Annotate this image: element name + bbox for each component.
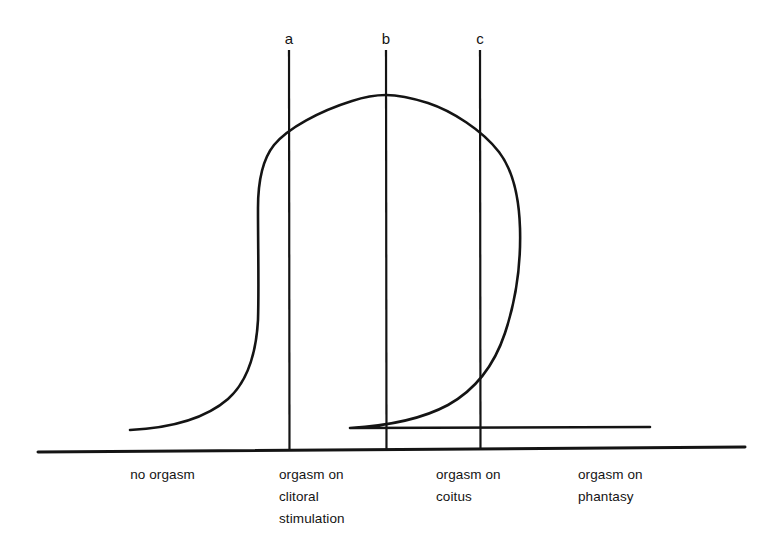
marker-line-c: [480, 50, 481, 449]
distribution-curve-path: [130, 95, 650, 430]
marker-line-a: [289, 50, 290, 450]
axis-label-orgasm-on-coitus: orgasm on coitus: [436, 464, 566, 508]
marker-line-b: [386, 50, 387, 450]
axis-label-orgasm-on-clitoral-stimulation: orgasm on clitoral stimulation: [279, 464, 409, 530]
marker-label-a: a: [277, 31, 301, 46]
x-axis-baseline: [38, 447, 745, 452]
axis-label-no-orgasm: no orgasm: [115, 464, 210, 486]
marker-label-c: c: [468, 31, 492, 46]
figure-root: a b c no orgasm orgasm on clitoral stimu…: [0, 0, 773, 553]
marker-label-b: b: [374, 31, 398, 46]
axis-label-orgasm-on-phantasy: orgasm on phantasy: [578, 464, 708, 508]
